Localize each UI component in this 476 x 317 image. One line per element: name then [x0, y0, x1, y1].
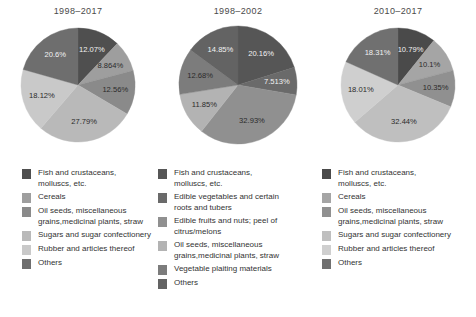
legend-item[interactable]: Sugars and sugar confectionery — [22, 230, 156, 241]
legends-row: Fish and crustaceans, molluscs, etc.Cere… — [0, 160, 476, 317]
legend-item-label: Cereals — [38, 192, 66, 203]
legend-swatch-icon — [158, 217, 167, 227]
pie-chart-figure: 1998–2017 12.07%8.864%12.56%27.79%18.12%… — [0, 0, 476, 317]
pie-slice-label: 10.35% — [423, 83, 449, 92]
legend-item-label: Sugars and sugar confectionery — [38, 230, 151, 241]
legend-item-label: Edible vegetables and certain roots and … — [174, 192, 279, 213]
pie-slice-label: 14.85% — [208, 45, 234, 54]
pie-svg: 12.07%8.864%12.56%27.79%18.12%20.6% — [0, 16, 156, 156]
legend-swatch-icon — [158, 193, 167, 203]
pie-slice-label: 7.513% — [264, 77, 290, 86]
pie-slice-label: 10.1% — [419, 60, 441, 69]
legend-item-label: Cereals — [338, 192, 366, 203]
legend-item[interactable]: Sugars and sugar confectionery — [322, 230, 476, 241]
legend-item-label: Edible fruits and nuts; peel of citrus/m… — [174, 216, 277, 237]
pie-slice-label: 18.12% — [29, 91, 55, 100]
legend-item[interactable]: Fish and crustaceans, molluscs, etc. — [322, 168, 476, 189]
pie-slice-label: 18.01% — [348, 85, 374, 94]
legend-item-label: Oil seeds, miscellaneous grains,medicina… — [338, 206, 443, 227]
legend-swatch-icon — [158, 241, 167, 251]
pie-chart-1998-2002: 20.16%7.513%32.93%11.85%12.68%14.85% — [156, 16, 320, 156]
legend-swatch-icon — [322, 259, 331, 269]
legend-swatch-icon — [22, 169, 31, 179]
legend-2010-2017: Fish and crustaceans, molluscs, etc.Cere… — [320, 160, 476, 317]
pie-slice-label: 12.68% — [187, 71, 213, 80]
legend-item-label: Fish and crustaceans, molluscs, etc. — [338, 168, 416, 189]
pie-slice-label: 18.31% — [365, 48, 391, 57]
panel-1998-2002: 1998–2002 20.16%7.513%32.93%11.85%12.68%… — [156, 0, 320, 160]
legend-item[interactable]: Cereals — [22, 192, 156, 203]
pie-slice-label: 32.44% — [391, 117, 417, 126]
legend-item[interactable]: Oil seeds, miscellaneous grains,medicina… — [158, 240, 320, 261]
panel-title: 1998–2017 — [0, 0, 156, 16]
legend-item[interactable]: Others — [158, 278, 320, 289]
legend-item[interactable]: Others — [22, 258, 156, 269]
pie-slice-label: 12.07% — [79, 45, 105, 54]
legend-item-label: Oil seeds, miscellaneous grains,medicina… — [174, 240, 279, 261]
pie-chart-2010-2017: 10.79%10.1%10.35%32.44%18.01%18.31% — [320, 16, 476, 156]
legend-item-label: Fish and crustaceans, molluscs, etc. — [38, 168, 116, 189]
pie-svg: 20.16%7.513%32.93%11.85%12.68%14.85% — [156, 16, 320, 156]
panel-title: 2010–2017 — [320, 0, 476, 16]
legend-item[interactable]: Rubber and articles thereof — [322, 244, 476, 255]
legend-item-label: Others — [174, 278, 198, 289]
legend-item-label: Fish and crustaceans, molluscs, etc. — [174, 168, 252, 189]
pie-slice-label: 10.79% — [398, 45, 424, 54]
legend-swatch-icon — [322, 207, 331, 217]
legend-swatch-icon — [158, 265, 167, 275]
legend-item[interactable]: Cereals — [322, 192, 476, 203]
pie-slice-label: 8.864% — [97, 61, 123, 70]
pie-slice-label: 20.16% — [248, 49, 274, 58]
panel-title: 1998–2002 — [156, 0, 320, 16]
legend-item-label: Sugars and sugar confectionery — [338, 230, 451, 241]
legend-item[interactable]: Edible fruits and nuts; peel of citrus/m… — [158, 216, 320, 237]
legend-swatch-icon — [22, 259, 31, 269]
legend-item-label: Oil seeds, miscellaneous grains,medicina… — [38, 206, 143, 227]
legend-swatch-icon — [322, 231, 331, 241]
legend-item[interactable]: Rubber and articles thereof — [22, 244, 156, 255]
legend-item[interactable]: Oil seeds, miscellaneous grains,medicina… — [22, 206, 156, 227]
legend-item-label: Rubber and articles thereof — [38, 244, 135, 255]
legend-swatch-icon — [322, 193, 331, 203]
legend-swatch-icon — [322, 245, 331, 255]
legend-item-label: Rubber and articles thereof — [338, 244, 435, 255]
legend-item[interactable]: Edible vegetables and certain roots and … — [158, 192, 320, 213]
pie-chart-1998-2017: 12.07%8.864%12.56%27.79%18.12%20.6% — [0, 16, 156, 156]
pie-slice-label: 27.79% — [71, 117, 97, 126]
legend-item[interactable]: Fish and crustaceans, molluscs, etc. — [158, 168, 320, 189]
panel-2010-2017: 2010–2017 10.79%10.1%10.35%32.44%18.01%1… — [320, 0, 476, 160]
pie-slice-label: 11.85% — [192, 100, 217, 109]
legend-swatch-icon — [158, 279, 167, 289]
pie-slice-label: 12.56% — [102, 85, 128, 94]
panel-1998-2017: 1998–2017 12.07%8.864%12.56%27.79%18.12%… — [0, 0, 156, 160]
pie-slice-label: 20.6% — [45, 50, 67, 59]
pie-svg: 10.79%10.1%10.35%32.44%18.01%18.31% — [320, 16, 476, 156]
legend-swatch-icon — [158, 169, 167, 179]
legend-item-label: Others — [38, 258, 62, 269]
legend-item[interactable]: Others — [322, 258, 476, 269]
legend-swatch-icon — [22, 193, 31, 203]
legend-item[interactable]: Vegetable plaiting materials — [158, 264, 320, 275]
legend-1998-2002: Fish and crustaceans, molluscs, etc.Edib… — [156, 160, 320, 317]
legend-item[interactable]: Oil seeds, miscellaneous grains,medicina… — [322, 206, 476, 227]
legend-swatch-icon — [322, 169, 331, 179]
legend-item-label: Vegetable plaiting materials — [174, 264, 272, 275]
legend-swatch-icon — [22, 207, 31, 217]
legend-item-label: Others — [338, 258, 362, 269]
legend-1998-2017: Fish and crustaceans, molluscs, etc.Cere… — [0, 160, 156, 317]
legend-swatch-icon — [22, 231, 31, 241]
pie-panels-row: 1998–2017 12.07%8.864%12.56%27.79%18.12%… — [0, 0, 476, 160]
legend-item[interactable]: Fish and crustaceans, molluscs, etc. — [22, 168, 156, 189]
pie-slice-label: 32.93% — [239, 116, 265, 125]
legend-swatch-icon — [22, 245, 31, 255]
